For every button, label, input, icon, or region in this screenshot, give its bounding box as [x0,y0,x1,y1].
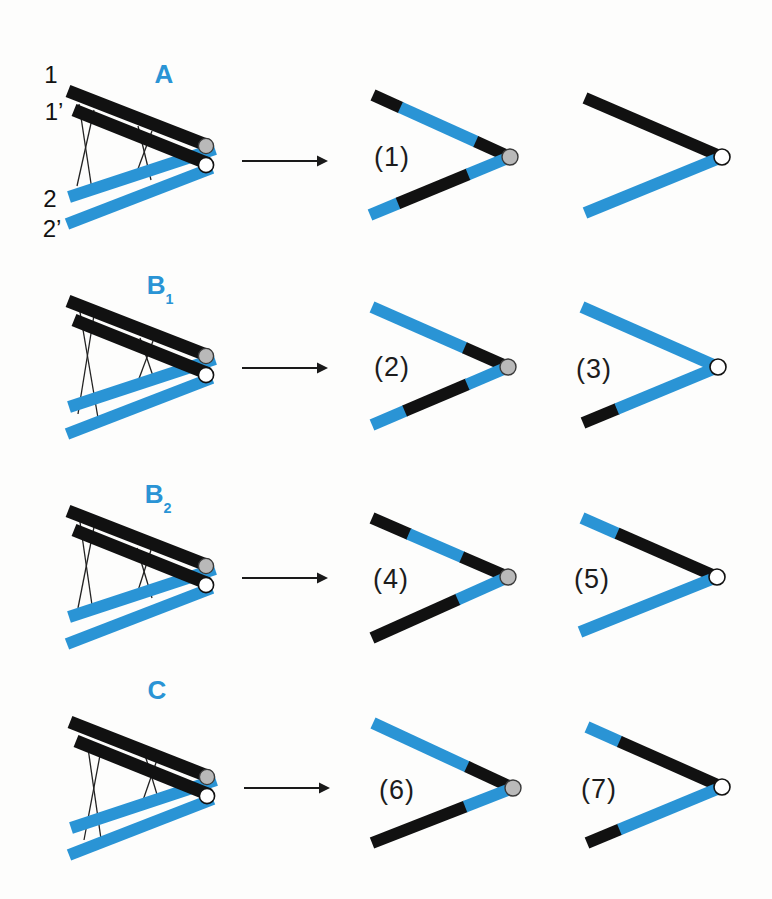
bivalent-b2 [67,511,215,644]
chromatid-label-2-prime: 2’ [43,217,62,241]
meiosis-crossover-figure: 11’22’A(1)B1(2)(3)B2(4)(5)C(6)(7) [0,0,772,899]
row-label-main: B [145,479,164,509]
row-label-c: C [148,677,167,707]
white-centromere-icon [714,149,730,165]
result-label-4: (4) [373,566,409,593]
lower-arm-segment [372,599,458,638]
result-label-1: (1) [374,144,410,171]
lower-arm-segment [372,806,466,843]
gray-centromere-icon [505,780,521,796]
result-label-7: (7) [581,776,617,803]
result-label-6: (6) [379,777,415,804]
upper-arm-segment [617,533,717,577]
lower-arm-segment [405,384,468,411]
upper-arm-segment [373,95,401,108]
arrow-right-icon [244,783,330,794]
row-label-main: A [155,59,174,89]
white-centromere-icon [710,359,726,375]
row-label-subscript: 1 [165,291,173,307]
gray-centromere-icon [500,569,516,585]
gray-centromere-icon [199,769,214,784]
row-label-b2: B2 [145,481,172,511]
row-label-main: B [147,270,166,300]
result-label-3: (3) [576,356,612,383]
upper-arm-segment [400,107,476,141]
gray-centromere-icon [198,138,213,153]
arrow-head [317,156,328,167]
lower-arm-segment [587,829,620,843]
gray-centromere-icon [198,348,213,363]
gray-centromere-icon [500,359,516,375]
row-label-b1: B1 [147,272,174,302]
lower-arm-segment [398,174,469,203]
diagram-canvas [0,0,772,899]
white-centromere-icon [198,157,213,172]
lower-arm-segment [619,787,722,830]
chromatid-label-1: 1 [44,63,57,87]
result-label-5: (5) [574,566,610,593]
white-centromere-icon [198,367,213,382]
bivalent-a [67,91,215,224]
upper-arm-segment [585,98,722,157]
lower-arm-segment [583,409,617,423]
white-centromere-icon [714,779,730,795]
row-label-subscript: 2 [163,500,171,516]
arrow-head [317,363,328,374]
arrow-right-icon [242,156,328,167]
bivalent-b1 [67,301,215,434]
upper-arm-segment [582,518,618,534]
white-centromere-icon [199,788,214,803]
upper-arm-segment [373,723,468,767]
white-centromere-icon [709,569,725,585]
chromosome-chevron-a-1 [585,98,730,213]
lower-arm-segment [372,411,405,425]
arrow-head [319,783,330,794]
upper-arm-segment [372,307,465,348]
upper-arm-segment [372,518,409,534]
lower-arm-segment [370,203,399,215]
chiasma-line [88,748,102,846]
white-centromere-icon [198,577,213,592]
chromatid-label-1-prime: 1’ [45,100,64,124]
lower-arm-segment [585,157,722,213]
upper-arm-segment [409,534,463,557]
gray-centromere-icon [502,149,518,165]
result-label-2: (2) [374,354,410,381]
lower-arm-segment [617,367,718,409]
arrow-right-icon [242,363,328,374]
arrow-right-icon [242,573,328,584]
gray-centromere-icon [198,558,213,573]
upper-arm-segment [619,741,722,787]
row-label-main: C [148,675,167,705]
chromatid-label-2: 2 [43,187,56,211]
row-label-a: A [155,61,174,91]
upper-arm-segment [587,727,620,742]
bivalent-c [69,722,216,855]
arrow-head [317,573,328,584]
